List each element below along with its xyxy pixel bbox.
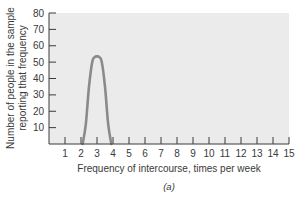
- x-tick-label: 1: [62, 148, 68, 159]
- x-axis-title: Frequency of intercourse, times per week: [77, 163, 261, 174]
- y-tick-label: 80: [33, 8, 45, 19]
- x-tick-label: 7: [158, 148, 164, 159]
- x-tick-label: 6: [142, 148, 148, 159]
- y-axis-title: Number of people in the samplereporting …: [5, 7, 28, 149]
- figure-caption: (a): [163, 181, 175, 192]
- x-tick-label: 8: [174, 148, 180, 159]
- y-axis-title-line: Number of people in the sample: [5, 7, 16, 149]
- x-tick-label: 3: [94, 148, 100, 159]
- x-tick-label: 14: [267, 148, 279, 159]
- x-tick-label: 5: [126, 148, 132, 159]
- x-tick-label: 11: [220, 148, 231, 159]
- x-tick-label: 9: [190, 148, 196, 159]
- y-tick-label: 30: [33, 89, 45, 100]
- x-tick-label: 12: [235, 148, 247, 159]
- x-tick-label: 10: [203, 148, 215, 159]
- y-tick-label: 40: [33, 73, 45, 84]
- y-tick-label: 20: [33, 106, 45, 117]
- x-tick-label: 13: [251, 148, 263, 159]
- y-tick-label: 50: [33, 57, 45, 68]
- y-tick-label: 60: [33, 40, 45, 51]
- x-tick-label: 15: [283, 148, 295, 159]
- y-axis-title-line: reporting that frequency: [17, 25, 28, 131]
- y-tick-label: 10: [33, 122, 45, 133]
- chart: Number of people in the samplereporting …: [0, 0, 299, 201]
- x-tick-label: 4: [110, 148, 116, 159]
- y-tick-label: 70: [33, 24, 45, 35]
- x-tick-label: 2: [78, 148, 84, 159]
